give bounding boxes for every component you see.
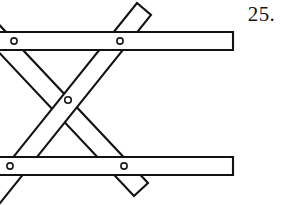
figure-number-label: 25. xyxy=(248,2,275,26)
scissor-linkage-drawing xyxy=(0,0,281,205)
rivet-bottom-left xyxy=(7,163,13,169)
rivet-top-right xyxy=(117,38,123,44)
rivet-bottom-right xyxy=(121,163,127,169)
figure-container: 25. xyxy=(0,0,281,205)
rivet-top-left xyxy=(11,38,17,44)
rivet-center-pivot xyxy=(65,97,72,104)
bottom-horizontal-bar xyxy=(0,157,233,175)
